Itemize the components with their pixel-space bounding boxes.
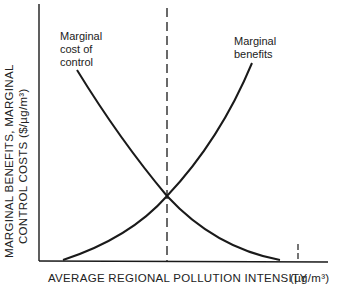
svg-text:MARGINAL BENEFITS, MARGINAL: MARGINAL BENEFITS, MARGINAL — [3, 64, 15, 258]
x-axis-units: (µg/m³) — [290, 272, 329, 284]
chart-canvas: Marginal cost of control Marginal benefi… — [0, 0, 342, 284]
svg-text:CONTROL COSTS ($/µg/m³): CONTROL COSTS ($/µg/m³) — [17, 88, 29, 244]
label-marginal-benefits: Marginal benefits — [234, 35, 279, 60]
y-axis-label: MARGINAL BENEFITS, MARGINAL CONTROL COST… — [3, 64, 29, 258]
label-marginal-cost: Marginal cost of control — [60, 30, 105, 68]
x-axis — [39, 261, 328, 262]
marginal-cost-curve — [77, 70, 280, 260]
x-axis-label: AVERAGE REGIONAL POLLUTION INTENSITY — [48, 272, 307, 284]
